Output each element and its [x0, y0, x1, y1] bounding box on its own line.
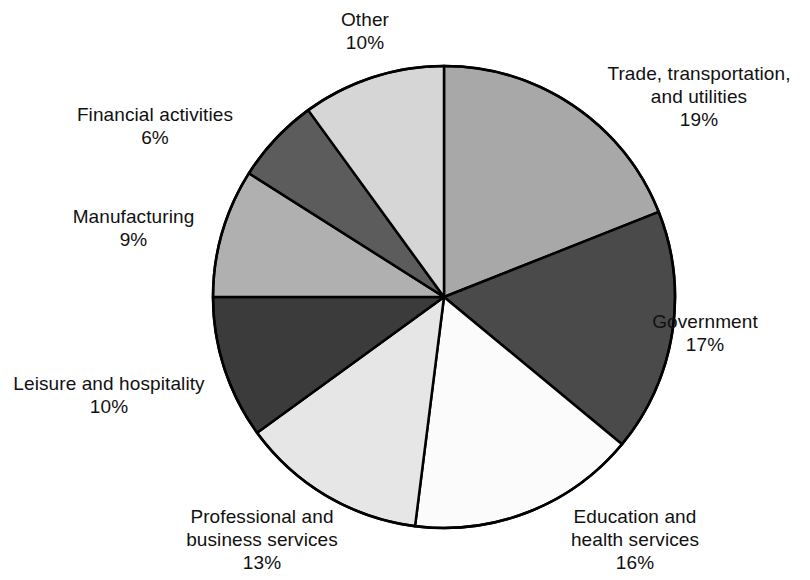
- pie-chart: Other 10% Trade, transportation, and uti…: [0, 0, 810, 580]
- slice-label-trade-line1: Trade, transportation,: [607, 63, 790, 84]
- slice-label-financial-percent: 6%: [40, 126, 270, 149]
- slice-label-trade-transportation-utilities: Trade, transportation, and utilities 19%: [588, 62, 810, 131]
- slice-label-trade-line2: and utilities: [651, 86, 747, 107]
- slice-label-trade-percent: 19%: [588, 108, 810, 131]
- slice-label-manufacturing: Manufacturing 9%: [26, 205, 241, 251]
- slice-label-education-and-health-services: Education and health services 16%: [530, 505, 740, 574]
- slice-label-leisure-percent: 10%: [0, 395, 218, 418]
- slice-label-education-line2: health services: [571, 529, 699, 550]
- slice-label-manufacturing-percent: 9%: [26, 228, 241, 251]
- slice-label-professional-and-business-services: Professional and business services 13%: [148, 505, 376, 574]
- slice-label-other: Other 10%: [290, 8, 440, 54]
- slice-label-government: Government 17%: [600, 310, 810, 356]
- slice-label-leisure-line1: Leisure and hospitality: [13, 373, 204, 394]
- slice-label-education-line1: Education and: [574, 506, 697, 527]
- slice-label-education-percent: 16%: [530, 551, 740, 574]
- slice-label-government-line1: Government: [652, 311, 758, 332]
- slice-label-other-percent: 10%: [290, 31, 440, 54]
- slice-label-professional-percent: 13%: [148, 551, 376, 574]
- slice-label-other-line1: Other: [341, 9, 389, 30]
- slice-label-manufacturing-line1: Manufacturing: [73, 206, 195, 227]
- slice-label-professional-line1: Professional and: [190, 506, 333, 527]
- slice-label-financial-activities: Financial activities 6%: [40, 103, 270, 149]
- slice-label-government-percent: 17%: [600, 333, 810, 356]
- slice-label-professional-line2: business services: [186, 529, 338, 550]
- slice-label-financial-line1: Financial activities: [77, 104, 233, 125]
- slice-label-leisure-and-hospitality: Leisure and hospitality 10%: [0, 372, 218, 418]
